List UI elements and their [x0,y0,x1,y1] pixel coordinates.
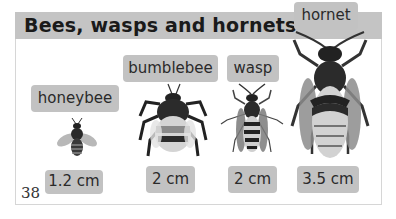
wasp-name-label: wasp [227,55,279,82]
wasp-size-label: 2 cm [228,166,277,193]
hornet-icon [282,26,378,166]
bumblebee-size-label: 2 cm [146,166,195,193]
honeybee-icon [52,112,102,160]
honeybee-size-label: 1.2 cm [45,170,103,194]
honeybee-name-label: honeybee [31,85,119,112]
page-title: Bees, wasps and hornets [24,12,297,39]
bumblebee-icon [136,82,210,160]
wasp-icon [219,80,285,162]
hornet-size-label: 3.5 cm [297,166,359,193]
page-number: 38 [21,184,40,202]
bumblebee-name-label: bumblebee [123,55,218,82]
